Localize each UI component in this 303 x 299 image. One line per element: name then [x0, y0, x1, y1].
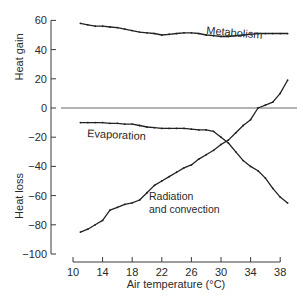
x-tick-label: 22: [156, 266, 168, 278]
data-point: [161, 34, 163, 36]
data-point: [228, 142, 230, 144]
data-point: [109, 26, 111, 28]
data-point: [205, 154, 207, 156]
y-tick-label: 0: [41, 102, 47, 114]
data-point: [220, 144, 222, 146]
data-point: [161, 128, 163, 130]
data-point: [94, 122, 96, 124]
data-point: [279, 93, 281, 95]
x-tick-label: 10: [67, 266, 79, 278]
data-point: [124, 203, 126, 205]
data-point: [272, 101, 274, 103]
data-point: [87, 228, 89, 230]
data-point: [80, 231, 82, 233]
data-point: [191, 128, 193, 130]
data-point: [242, 125, 244, 127]
y-tick-label: 40: [35, 44, 47, 56]
data-point: [124, 123, 126, 125]
data-point: [168, 33, 170, 35]
data-point: [80, 22, 82, 24]
data-point: [287, 79, 289, 81]
data-point: [154, 184, 156, 186]
label-radiation-2: and convection: [149, 203, 220, 215]
data-point: [257, 170, 259, 172]
data-point: [168, 176, 170, 178]
y-tick-label: 60: [35, 14, 47, 26]
data-point: [198, 158, 200, 160]
data-point: [198, 129, 200, 131]
data-point: [235, 151, 237, 153]
data-point: [176, 128, 178, 130]
data-point: [272, 187, 274, 189]
data-point: [228, 139, 230, 141]
data-point: [250, 166, 252, 168]
data-point: [198, 33, 200, 35]
y-tick-label: −60: [28, 190, 47, 202]
data-point: [94, 224, 96, 226]
data-point: [102, 220, 104, 222]
data-point: [146, 126, 148, 128]
data-point: [139, 199, 141, 201]
data-point: [146, 32, 148, 34]
data-point: [94, 25, 96, 27]
y-tick-label: 20: [35, 73, 47, 85]
data-point: [213, 130, 215, 132]
x-tick-label: 26: [185, 266, 197, 278]
x-tick-label: 30: [215, 266, 227, 278]
data-point: [161, 180, 163, 182]
data-point: [154, 33, 156, 35]
data-point: [168, 128, 170, 130]
data-point: [250, 119, 252, 121]
heat-balance-chart: 6040200−20−40−60−80−1001014182226303438 …: [0, 0, 303, 299]
data-point: [109, 209, 111, 211]
data-point: [183, 128, 185, 130]
data-point: [131, 202, 133, 204]
data-point: [220, 136, 222, 138]
x-tick-label: 38: [274, 266, 286, 278]
x-tick-label: 14: [96, 266, 108, 278]
data-point: [87, 122, 89, 124]
data-point: [213, 149, 215, 151]
data-point: [191, 32, 193, 34]
data-point: [80, 122, 82, 124]
data-point: [287, 202, 289, 204]
data-point: [102, 122, 104, 124]
y-tick-label: −20: [28, 131, 47, 143]
data-point: [265, 177, 267, 179]
y-tick-label: −100: [22, 248, 47, 260]
data-point: [287, 33, 289, 35]
data-point: [124, 28, 126, 30]
data-point: [265, 33, 267, 35]
data-point: [87, 24, 89, 26]
data-point: [265, 104, 267, 106]
y-label-heat-loss: Heat loss: [13, 173, 25, 219]
data-point: [102, 25, 104, 27]
data-point: [131, 30, 133, 32]
data-point: [257, 107, 259, 109]
data-point: [131, 123, 133, 125]
y-tick-label: −40: [28, 160, 47, 172]
data-point: [183, 167, 185, 169]
data-point: [117, 27, 119, 29]
data-point: [205, 129, 207, 131]
data-point: [176, 171, 178, 173]
data-point: [139, 31, 141, 33]
y-label-heat-gain: Heat gain: [13, 33, 25, 80]
x-tick-label: 34: [244, 266, 256, 278]
axes: 6040200−20−40−60−80−1001014182226303438: [22, 14, 297, 278]
data-point: [279, 33, 281, 35]
data-point: [154, 127, 156, 129]
data-point: [242, 160, 244, 162]
data-point: [272, 33, 274, 35]
data-point: [146, 192, 148, 194]
data-point: [117, 206, 119, 208]
data-point: [139, 125, 141, 127]
data-point: [191, 164, 193, 166]
data-point: [235, 132, 237, 134]
x-axis-label: Air temperature (°C): [127, 278, 226, 290]
label-radiation: Radiation: [149, 190, 194, 202]
data-point: [117, 122, 119, 124]
label-metabolism: Metabolism: [206, 24, 263, 41]
data-point: [183, 32, 185, 34]
data-point: [279, 196, 281, 198]
